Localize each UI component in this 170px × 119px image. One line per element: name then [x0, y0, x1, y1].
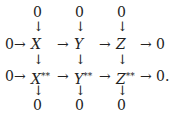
row1-right-zero: 0: [156, 37, 165, 51]
down-arrow-icon: ↓: [33, 53, 44, 66]
arrow-icon: →: [99, 69, 111, 83]
node-x: X: [31, 37, 41, 51]
down-arrow-icon: ↓: [117, 53, 128, 66]
top-zero-x: 0: [33, 5, 42, 19]
arrow-icon: →: [57, 37, 69, 51]
arrow-icon: →: [99, 37, 111, 51]
row2-left-zero: 0: [5, 69, 14, 83]
down-arrow-icon: ↓: [75, 53, 86, 66]
node-y: Y: [74, 37, 83, 51]
arrow-icon: →: [140, 37, 152, 51]
arrow-icon: →: [14, 37, 26, 51]
down-arrow-icon: ↓: [33, 20, 44, 33]
down-arrow-icon: ↓: [33, 84, 44, 97]
row1-left-zero: 0: [5, 37, 14, 51]
bottom-zero-z: 0: [117, 98, 126, 112]
top-zero-y: 0: [75, 5, 84, 19]
down-arrow-icon: ↓: [117, 20, 128, 33]
top-zero-z: 0: [117, 5, 126, 19]
arrow-icon: →: [57, 69, 69, 83]
bottom-zero-x: 0: [33, 98, 42, 112]
arrow-icon: →: [14, 69, 26, 83]
down-arrow-icon: ↓: [117, 84, 128, 97]
arrow-icon: →: [140, 69, 152, 83]
bottom-zero-y: 0: [75, 98, 84, 112]
down-arrow-icon: ↓: [75, 20, 86, 33]
down-arrow-icon: ↓: [75, 84, 86, 97]
node-z: Z: [116, 37, 126, 51]
row2-right-zero: 0.: [156, 69, 169, 83]
